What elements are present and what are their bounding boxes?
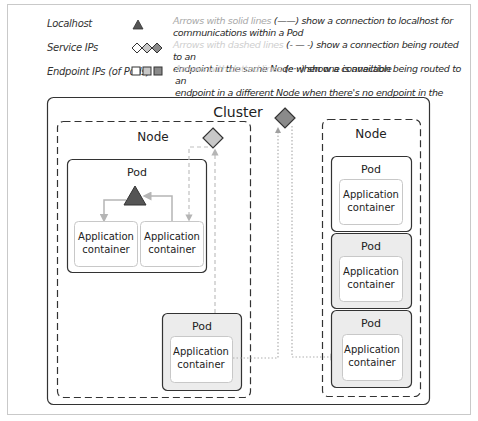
right-pod-3: Pod Application container: [332, 311, 412, 388]
right-node-label: Node: [355, 127, 386, 141]
svg-text:Pod: Pod: [361, 240, 381, 253]
container-label: Application: [78, 231, 134, 242]
legend-symbols: [132, 20, 162, 75]
localhost-triangle-icon: [133, 20, 143, 29]
svg-text:Application: Application: [344, 344, 400, 355]
svg-text:Pod: Pod: [361, 317, 381, 330]
pod-multi-label: Pod: [127, 166, 147, 179]
container-label: container: [148, 244, 196, 255]
left-node-label: Node: [137, 130, 168, 144]
cluster-label: Cluster: [213, 104, 263, 120]
container-label: container: [177, 359, 225, 370]
pod-single-label: Pod: [192, 320, 212, 333]
container-label: Application: [173, 346, 229, 357]
svg-text:container: container: [347, 202, 395, 213]
right-pod-2: Pod Application container: [332, 234, 412, 309]
container-label: container: [82, 244, 130, 255]
svg-text:container: container: [347, 279, 395, 290]
svg-text:Application: Application: [343, 189, 399, 200]
svg-text:Pod: Pod: [361, 163, 381, 176]
endpoint-ip-squares-icon: [132, 67, 162, 75]
container-label: Application: [144, 231, 200, 242]
svg-text:container: container: [348, 357, 396, 368]
service-ip-diamonds-icon: [132, 43, 162, 53]
right-pod-1: Pod Application container: [332, 157, 412, 232]
svg-text:Application: Application: [343, 266, 399, 277]
